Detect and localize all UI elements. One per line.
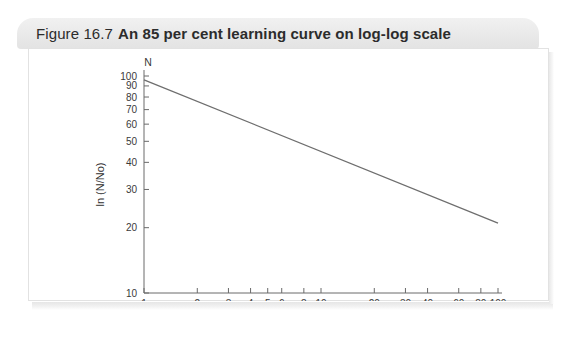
x-tick-label: 1 (141, 298, 147, 301)
y-tick-label: 60 (126, 119, 138, 130)
y-tick-label: 80 (126, 92, 138, 103)
x-tick-label: 30 (400, 298, 412, 301)
y-tick-label: 100 (120, 71, 137, 82)
figure-number: Figure 16.7 (36, 25, 113, 42)
x-tick-label: 100 (490, 298, 507, 301)
learning-curve-line (144, 80, 498, 223)
y-axis-title: ln (N/No) (94, 162, 106, 206)
plot-area: 1020304050607080901001234568102030406080… (94, 56, 507, 301)
x-tick-label: 4 (248, 298, 254, 301)
figure-shadow-right (549, 52, 554, 304)
y-tick-label: 30 (126, 184, 138, 195)
learning-curve-chart: 1020304050607080901001234568102030406080… (28, 48, 549, 301)
x-tick-label: 80 (475, 298, 487, 301)
figure-page: Figure 16.7An 85 per cent learning curve… (0, 0, 580, 355)
y-tick-label: 70 (126, 104, 138, 115)
x-tick-label: 10 (315, 298, 327, 301)
x-tick-label: 8 (301, 298, 307, 301)
y-tick-label: 10 (126, 288, 138, 299)
y-tick-label: 50 (126, 136, 138, 147)
y-tick-label: 90 (126, 80, 138, 91)
chart-canvas: 1020304050607080901001234568102030406080… (28, 48, 549, 301)
figure-caption: Figure 16.7An 85 per cent learning curve… (36, 25, 451, 42)
x-tick-label: 3 (226, 298, 232, 301)
x-tick-label: 40 (422, 298, 434, 301)
x-tick-label: 6 (279, 298, 285, 301)
y-tick-label: 40 (126, 157, 138, 168)
x-tick-label: 60 (453, 298, 465, 301)
figure-title: An 85 per cent learning curve on log-log… (118, 25, 451, 42)
x-tick-label: 20 (369, 298, 381, 301)
x-tick-label: 2 (195, 298, 201, 301)
axis-spines (144, 70, 502, 293)
y-axis-top-symbol: N (144, 56, 152, 68)
x-tick-label: 5 (265, 298, 271, 301)
figure-shadow-bottom (32, 302, 553, 310)
y-tick-label: 20 (126, 222, 138, 233)
